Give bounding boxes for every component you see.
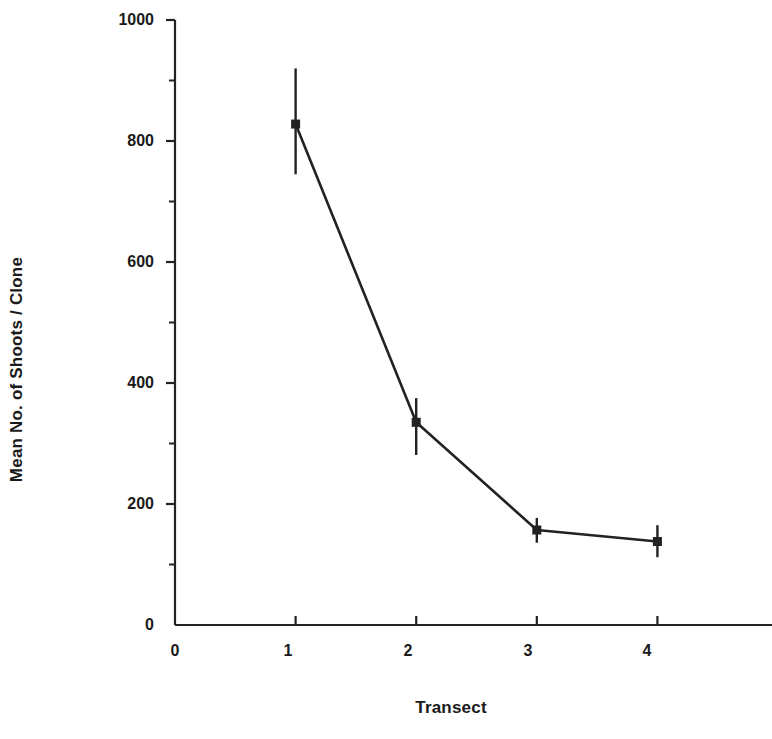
data-point-group bbox=[653, 525, 662, 557]
data-marker bbox=[291, 120, 300, 129]
data-point-group bbox=[291, 68, 300, 174]
data-marker bbox=[532, 526, 541, 535]
data-point-group bbox=[412, 398, 421, 455]
data-marker bbox=[653, 537, 662, 546]
data-line bbox=[296, 124, 658, 541]
data-point-group bbox=[532, 518, 541, 543]
plot-canvas bbox=[0, 0, 772, 739]
data-marker bbox=[412, 418, 421, 427]
data-series-layer bbox=[291, 68, 662, 557]
chart-figure: Mean No. of Shoots / Clone 1000 800 600 … bbox=[0, 0, 772, 739]
axis-lines bbox=[166, 20, 772, 625]
